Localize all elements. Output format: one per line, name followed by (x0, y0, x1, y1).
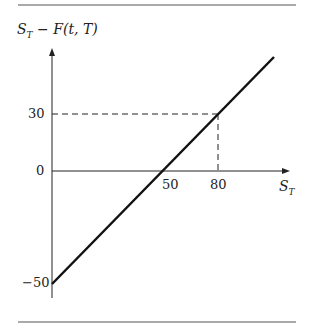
y-label-rest: − F(t, T) (33, 21, 98, 37)
y-label-main: S (17, 21, 27, 37)
y-tick-neg50: −50 (22, 275, 49, 290)
x-label-main: S (279, 178, 289, 194)
x-tick-50: 50 (162, 177, 179, 192)
x-tick-80: 80 (210, 177, 227, 192)
x-label-sub: T (289, 187, 295, 197)
y-tick-30: 30 (28, 106, 45, 121)
y-tick-0: 0 (36, 163, 44, 178)
x-axis-label: ST (279, 178, 295, 197)
y-axis-arrow-icon (49, 48, 55, 56)
y-axis-label: ST − F(t, T) (17, 21, 98, 40)
x-axis-arrow-icon (282, 168, 290, 174)
